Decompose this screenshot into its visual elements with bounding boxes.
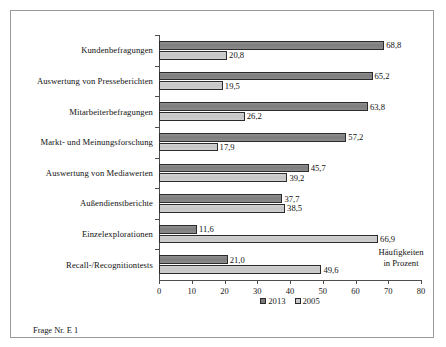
category-label: Einzelexplorationen bbox=[82, 229, 153, 239]
bar-value-label: 57,2 bbox=[348, 132, 363, 142]
x-axis-tick bbox=[323, 280, 324, 284]
x-axis-tick-label: 0 bbox=[157, 286, 161, 296]
x-axis-tick bbox=[388, 280, 389, 284]
bar-2005: 49,6 bbox=[159, 265, 321, 274]
category-label: Recall-/Recognitiontests bbox=[66, 260, 153, 270]
legend-swatch-icon bbox=[260, 298, 266, 304]
legend-item-2005[interactable]: 2005 bbox=[295, 296, 320, 306]
category-label: Auswertung von Presseberichten bbox=[37, 76, 153, 86]
bar-value-label: 19,5 bbox=[225, 81, 240, 91]
x-axis-tick-label: 70 bbox=[384, 286, 393, 296]
x-axis-tick-label: 50 bbox=[319, 286, 328, 296]
axis-annotation: Häufigkeiten in Prozent bbox=[366, 247, 436, 268]
axis-annotation-line-2: in Prozent bbox=[366, 258, 436, 269]
bar-value-label: 39,2 bbox=[289, 173, 304, 183]
bar-2013: 45,7 bbox=[159, 164, 309, 173]
bar-value-label: 38,5 bbox=[287, 203, 302, 213]
bar-2013: 11,6 bbox=[159, 225, 197, 234]
bar-value-label: 37,7 bbox=[284, 194, 299, 204]
bar-group: Außendienstberichte37,738,5 bbox=[159, 188, 421, 219]
bar-group: Auswertung von Mediawerten45,739,2 bbox=[159, 158, 421, 189]
bar-group: Einzelexplorationen11,666,9 bbox=[159, 219, 421, 250]
bar-value-label: 68,8 bbox=[386, 40, 401, 50]
category-label: Mitarbeiterbefragungen bbox=[69, 107, 153, 117]
x-axis-tick bbox=[356, 280, 357, 284]
x-axis-tick bbox=[225, 280, 226, 284]
bar-2013: 37,7 bbox=[159, 194, 282, 203]
bar-value-label: 65,2 bbox=[375, 71, 390, 81]
legend-label: 2005 bbox=[303, 296, 320, 306]
x-axis-tick bbox=[192, 280, 193, 284]
x-axis-tick bbox=[421, 280, 422, 284]
x-axis-tick-label: 40 bbox=[286, 286, 295, 296]
footer-note: Frage Nr. E 1 bbox=[33, 326, 78, 335]
bar-2005: 17,9 bbox=[159, 143, 218, 152]
bar-2013: 63,8 bbox=[159, 102, 368, 111]
category-label: Markt- und Meinungsforschung bbox=[40, 137, 153, 147]
bar-2013: 57,2 bbox=[159, 133, 346, 142]
bar-group: Kundenbefragungen68,820,8 bbox=[159, 35, 421, 66]
category-label: Außendienstberichte bbox=[80, 198, 153, 208]
bar-2005: 66,9 bbox=[159, 235, 378, 244]
bar-group: Auswertung von Presseberichten65,219,5 bbox=[159, 66, 421, 97]
bar-group: Mitarbeiterbefragungen63,826,2 bbox=[159, 96, 421, 127]
bar-2005: 26,2 bbox=[159, 112, 245, 121]
axis-annotation-line-1: Häufigkeiten bbox=[366, 247, 436, 258]
bar-value-label: 66,9 bbox=[380, 234, 395, 244]
bar-value-label: 63,8 bbox=[370, 102, 385, 112]
x-axis-tick bbox=[257, 280, 258, 284]
figure-container: 01020304050607080 Kundenbefragungen68,82… bbox=[0, 0, 446, 347]
bar-value-label: 49,6 bbox=[323, 265, 338, 275]
legend-item-2013[interactable]: 2013 bbox=[260, 296, 285, 306]
x-axis-tick-label: 10 bbox=[188, 286, 197, 296]
category-label: Auswertung von Mediawerten bbox=[46, 168, 153, 178]
category-label: Kundenbefragungen bbox=[81, 45, 153, 55]
legend-swatch-icon bbox=[295, 298, 301, 304]
bar-group: Markt- und Meinungsforschung57,217,9 bbox=[159, 127, 421, 158]
plot-area: 01020304050607080 Kundenbefragungen68,82… bbox=[159, 35, 421, 280]
figure-frame: 01020304050607080 Kundenbefragungen68,82… bbox=[10, 10, 434, 338]
bar-2005: 39,2 bbox=[159, 173, 287, 182]
chart-legend: 20132005 bbox=[159, 296, 421, 306]
x-axis-tick-label: 30 bbox=[253, 286, 262, 296]
bar-2005: 19,5 bbox=[159, 81, 223, 90]
x-axis-tick-label: 80 bbox=[417, 286, 426, 296]
bar-value-label: 17,9 bbox=[220, 142, 235, 152]
bar-2013: 65,2 bbox=[159, 72, 373, 81]
bar-2013: 21,0 bbox=[159, 255, 228, 264]
bar-value-label: 45,7 bbox=[311, 163, 326, 173]
x-axis-tick-label: 20 bbox=[220, 286, 229, 296]
x-axis-tick-label: 60 bbox=[351, 286, 360, 296]
bar-value-label: 21,0 bbox=[230, 255, 245, 265]
x-axis-tick bbox=[290, 280, 291, 284]
legend-label: 2013 bbox=[268, 296, 285, 306]
bar-2005: 20,8 bbox=[159, 51, 227, 60]
bar-value-label: 26,2 bbox=[247, 111, 262, 121]
bar-2013: 68,8 bbox=[159, 41, 384, 50]
bar-value-label: 11,6 bbox=[199, 224, 214, 234]
bar-value-label: 20,8 bbox=[229, 50, 244, 60]
x-axis-tick bbox=[159, 280, 160, 284]
bar-2005: 38,5 bbox=[159, 204, 285, 213]
